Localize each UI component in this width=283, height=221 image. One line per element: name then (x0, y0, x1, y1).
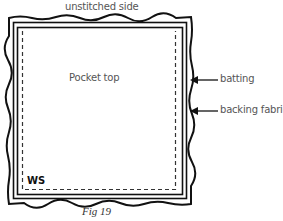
stitch-line (23, 31, 176, 190)
figure-caption: Fig 19 (82, 205, 111, 217)
batting-layer (14, 23, 187, 199)
wrong-side-marker: WS (27, 175, 45, 186)
backing-fabric-label: backing fabric (220, 104, 283, 115)
pocket-top-layer (18, 28, 183, 195)
pocket-top-label: Pocket top (69, 72, 119, 83)
batting-label: batting (220, 73, 254, 84)
unstitched-side-label: unstitched side (65, 1, 139, 12)
